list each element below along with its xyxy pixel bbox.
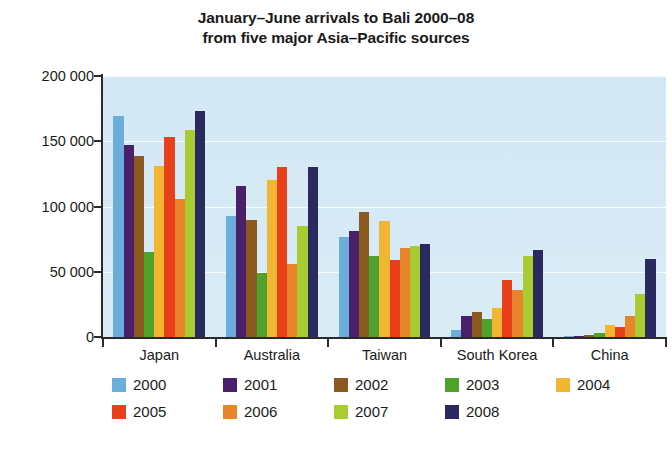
bar-group — [441, 76, 554, 337]
legend-row-1: 20002001200220032004 — [0, 374, 672, 401]
bar-australia-2000 — [226, 216, 236, 337]
x-axis-label-australia: Australia — [216, 346, 329, 364]
x-axis-label-south-korea: South Korea — [441, 346, 554, 364]
bar-south-korea-2006 — [512, 290, 522, 337]
bar-china-2003 — [594, 333, 604, 337]
x-axis-label-taiwan: Taiwan — [328, 346, 441, 364]
y-axis-tick-label: 200 000 — [6, 69, 94, 83]
bar-china-2005 — [615, 327, 625, 337]
bar-china-2006 — [625, 316, 635, 337]
legend-label-2003: 2003 — [466, 377, 499, 393]
chart-title: January–June arrivals to Bali 2000–08 fr… — [0, 8, 672, 48]
bar-south-korea-2008 — [533, 250, 543, 337]
bar-south-korea-2003 — [482, 319, 492, 337]
x-axis-line — [101, 337, 667, 339]
bar-group — [553, 76, 666, 337]
legend-swatch-2003 — [445, 378, 459, 392]
legend-label-2008: 2008 — [466, 404, 499, 420]
legend-swatch-2002 — [334, 378, 348, 392]
bar-china-2001 — [574, 336, 584, 337]
bar-japan-2002 — [134, 156, 144, 337]
legend-item-2000[interactable]: 2000 — [112, 374, 166, 396]
legend-item-2003[interactable]: 2003 — [445, 374, 499, 396]
bar-south-korea-2002 — [472, 312, 482, 337]
bar-australia-2008 — [308, 167, 318, 337]
legend-item-2006[interactable]: 2006 — [223, 401, 277, 423]
legend-label-2002: 2002 — [355, 377, 388, 393]
bar-taiwan-2008 — [420, 244, 430, 337]
bar-china-2008 — [645, 259, 655, 337]
bar-australia-2001 — [236, 186, 246, 337]
bar-japan-2008 — [195, 111, 205, 337]
chart-title-line-2: from five major Asia–Pacific sources — [0, 28, 672, 48]
y-axis-tick-label: 150 000 — [6, 134, 94, 148]
bar-china-2007 — [635, 294, 645, 337]
bar-south-korea-2007 — [523, 256, 533, 337]
bar-group — [103, 76, 216, 337]
legend-item-2008[interactable]: 2008 — [445, 401, 499, 423]
legend-swatch-2007 — [334, 405, 348, 419]
y-axis-tick-label: 0 — [6, 330, 94, 344]
bar-japan-2003 — [144, 252, 154, 337]
bar-china-2002 — [584, 335, 594, 337]
x-axis-label-china: China — [553, 346, 666, 364]
bar-south-korea-2000 — [451, 330, 461, 337]
bar-australia-2004 — [267, 180, 277, 337]
legend-swatch-2001 — [223, 378, 237, 392]
legend-swatch-2005 — [112, 405, 126, 419]
bar-australia-2007 — [297, 226, 307, 337]
legend-swatch-2008 — [445, 405, 459, 419]
chart-legend: 20002001200220032004 2005200620072008 — [0, 374, 672, 428]
bar-australia-2002 — [246, 220, 256, 337]
bar-south-korea-2001 — [461, 316, 471, 337]
legend-label-2004: 2004 — [577, 377, 610, 393]
bar-australia-2005 — [277, 167, 287, 337]
bar-groups — [103, 76, 666, 337]
legend-item-2002[interactable]: 2002 — [334, 374, 388, 396]
legend-label-2006: 2006 — [244, 404, 277, 420]
bar-japan-2005 — [164, 137, 174, 337]
bar-japan-2000 — [113, 116, 123, 337]
bar-japan-2001 — [124, 145, 134, 337]
bar-australia-2003 — [257, 273, 267, 337]
bar-japan-2006 — [175, 199, 185, 337]
legend-label-2007: 2007 — [355, 404, 388, 420]
legend-row-2: 2005200620072008 — [0, 401, 672, 428]
bar-china-2000 — [564, 336, 574, 337]
legend-label-2000: 2000 — [133, 377, 166, 393]
bar-taiwan-2006 — [400, 248, 410, 337]
x-axis-category-labels: JapanAustraliaTaiwanSouth KoreaChina — [103, 346, 666, 368]
bar-taiwan-2002 — [359, 212, 369, 337]
bar-australia-2006 — [287, 264, 297, 337]
bar-taiwan-2000 — [339, 237, 349, 337]
chart-container: January–June arrivals to Bali 2000–08 fr… — [0, 0, 672, 462]
bar-japan-2004 — [154, 166, 164, 337]
legend-swatch-2004 — [556, 378, 570, 392]
chart-title-line-1: January–June arrivals to Bali 2000–08 — [198, 9, 474, 26]
bar-south-korea-2005 — [502, 280, 512, 337]
bar-taiwan-2007 — [410, 246, 420, 337]
legend-label-2005: 2005 — [133, 404, 166, 420]
legend-swatch-2006 — [223, 405, 237, 419]
bar-south-korea-2004 — [492, 308, 502, 337]
legend-label-2001: 2001 — [244, 377, 277, 393]
y-axis-tick-label: 50 000 — [6, 265, 94, 279]
bar-china-2004 — [605, 325, 615, 337]
bar-taiwan-2004 — [379, 221, 389, 337]
bar-japan-2007 — [185, 130, 195, 337]
bar-group — [216, 76, 329, 337]
legend-item-2005[interactable]: 2005 — [112, 401, 166, 423]
legend-swatch-2000 — [112, 378, 126, 392]
y-axis-tick-label: 100 000 — [6, 200, 94, 214]
legend-item-2004[interactable]: 2004 — [556, 374, 610, 396]
x-axis-label-japan: Japan — [103, 346, 216, 364]
bar-taiwan-2001 — [349, 231, 359, 337]
bar-taiwan-2003 — [369, 256, 379, 337]
legend-item-2001[interactable]: 2001 — [223, 374, 277, 396]
bar-group — [328, 76, 441, 337]
bar-taiwan-2005 — [390, 260, 400, 337]
legend-item-2007[interactable]: 2007 — [334, 401, 388, 423]
